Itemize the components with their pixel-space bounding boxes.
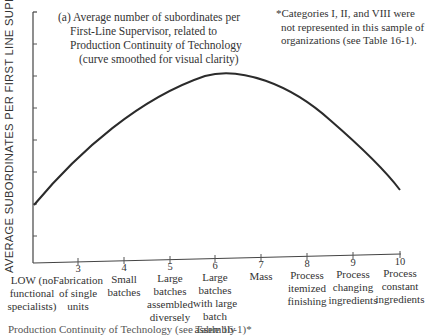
- category-label-single-units: Fabrication of single units: [53, 274, 103, 313]
- data-curve: [34, 73, 400, 205]
- category-label-low: LOW (no functional specialists): [8, 274, 57, 313]
- note-line-2: not represented in this sample of: [276, 21, 424, 35]
- note-line-3: organizations (see Table 16-1).: [276, 34, 424, 48]
- x-tick-label-5: 5: [167, 261, 172, 272]
- x-tick-label-10: 10: [395, 256, 406, 267]
- category-label-process-changing: Process changing ingredients: [329, 268, 378, 307]
- x-tick-label-9: 9: [350, 257, 355, 268]
- note-line-1: *Categories I, II, and VIII were: [276, 7, 424, 21]
- category-label-process-constant: Process constant ingredients: [376, 267, 425, 306]
- title-line-2: First-Line Supervisor, related to: [58, 24, 242, 38]
- title-line-1: (a) Average number of subordinates per: [58, 10, 242, 24]
- x-tick-label-6: 6: [212, 260, 217, 271]
- title-line-3: Production Continuity of Technology: [58, 38, 242, 52]
- title-line-4: (curve smoothed for visual clarity): [58, 52, 242, 66]
- chart-title: (a) Average number of subordinates per F…: [58, 10, 242, 66]
- x-tick-label-3: 3: [75, 263, 80, 274]
- x-tick-label-4: 4: [121, 262, 126, 273]
- category-label-small-batches: Small batches: [108, 273, 141, 299]
- x-tick-label-8: 8: [304, 258, 309, 269]
- x-axis-label: Production Continuity of Technology (see…: [8, 323, 252, 335]
- category-label-mass: Mass: [249, 270, 272, 283]
- x-tick-label-7: 7: [258, 259, 263, 270]
- category-label-process-itemized: Process itemized finishing: [287, 269, 326, 308]
- category-label-large-batches-diversely: Large batches assembled diversely: [147, 272, 193, 324]
- footnote-annotation: *Categories I, II, and VIII were not rep…: [276, 7, 424, 48]
